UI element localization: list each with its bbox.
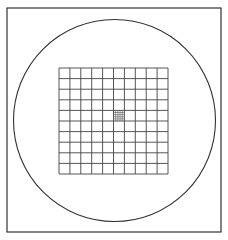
reticle-diagram [0,0,228,240]
field-circle [14,20,216,222]
outer-frame [7,8,221,232]
counting-grid [59,68,168,174]
center-fine-grid [114,110,125,121]
